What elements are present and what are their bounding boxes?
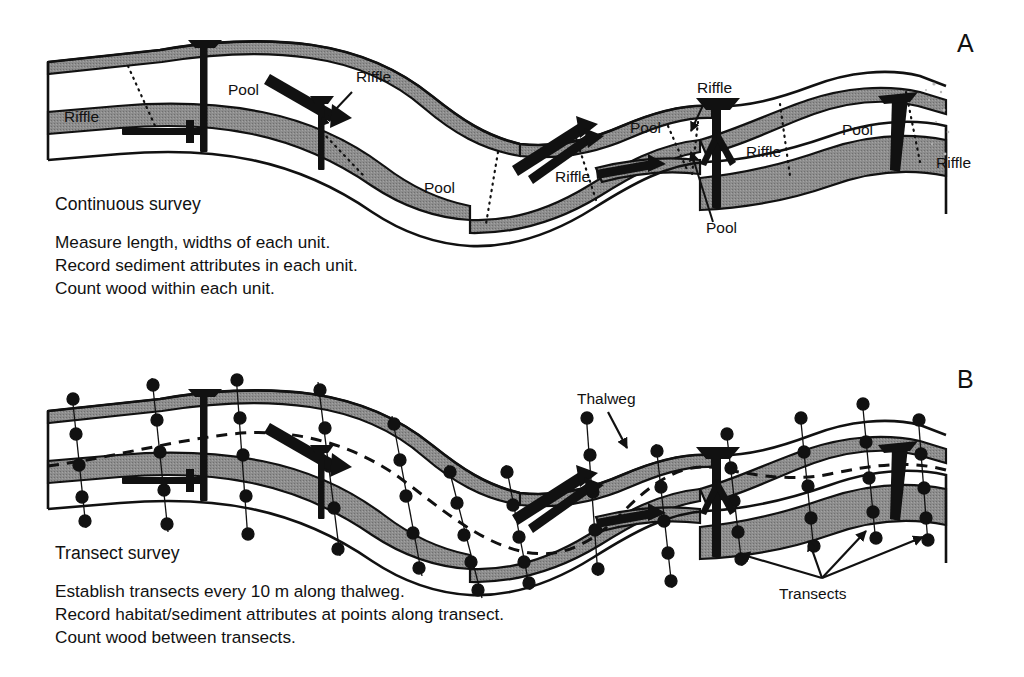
boundary-3 [486, 152, 498, 224]
label-riffle-a4: Riffle [697, 79, 732, 96]
gravel-bar-lower-right [700, 136, 946, 210]
figure-stream-survey-methods: A Riffle Pool Riffle Pool Riffle Pool Ri… [0, 0, 1024, 677]
gravel-bar-b-mid [470, 489, 700, 582]
panel-a-caption-line-2: Record sediment attributes in each unit. [55, 255, 358, 275]
panel-b-caption-line-1: Establish transects every 10 m along tha… [55, 581, 405, 601]
panel-b: B Thalweg Transects Transect survey Esta… [48, 365, 974, 647]
figure-canvas: A Riffle Pool Riffle Pool Riffle Pool Ri… [0, 0, 1024, 677]
label-riffle-a5: Riffle [746, 143, 781, 160]
panel-a-caption-line-1: Measure length, widths of each unit. [55, 232, 330, 252]
label-pool-a3: Pool [630, 119, 661, 136]
panel-b-survey-title: Transect survey [55, 543, 180, 563]
panel-a: A Riffle Pool Riffle Pool Riffle Pool Ri… [48, 29, 974, 298]
transect-line [913, 414, 934, 546]
panel-b-caption-line-3: Count wood between transects. [55, 627, 296, 647]
label-transects: Transects [779, 585, 847, 602]
label-pool-a1: Pool [228, 81, 259, 98]
label-riffle-a2: Riffle [356, 68, 391, 85]
leader-thalweg [608, 412, 627, 448]
label-thalweg: Thalweg [577, 390, 636, 407]
label-pool-a2: Pool [424, 179, 455, 196]
panel-a-caption: Measure length, widths of each unit. Rec… [55, 232, 358, 298]
gravel-bar-mid [470, 140, 700, 233]
panel-b-letter: B [957, 365, 974, 393]
label-riffle-a6: Riffle [936, 154, 971, 171]
label-riffle-a1: Riffle [64, 108, 99, 125]
panel-a-survey-title: Continuous survey [55, 194, 201, 214]
panel-a-caption-line-3: Count wood within each unit. [55, 278, 275, 298]
panel-a-letter: A [957, 29, 974, 57]
label-pool-a5: Pool [842, 121, 873, 138]
label-pool-a4: Pool [706, 219, 737, 236]
label-riffle-a3: Riffle [555, 168, 590, 185]
panel-b-caption-line-2: Record habitat/sediment attributes at po… [55, 604, 504, 624]
